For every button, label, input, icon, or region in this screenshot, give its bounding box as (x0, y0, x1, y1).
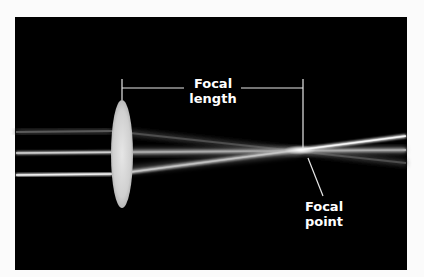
center-ray (16, 150, 406, 153)
focal-point-glow (284, 145, 316, 155)
focal-point-label-line2: point (296, 214, 352, 229)
focal-length-label: Focal length (185, 76, 241, 106)
focal-length-label-line2: length (185, 91, 241, 106)
diagram-stage: Focal length Focal point (0, 0, 424, 277)
convex-lens (111, 100, 133, 208)
focal-length-label-line1: Focal (185, 76, 241, 91)
focal-point-label-line1: Focal (296, 199, 352, 214)
focal-point-label: Focal point (296, 199, 352, 229)
optics-diagram (0, 0, 424, 277)
focal-point-pointer (308, 158, 323, 196)
